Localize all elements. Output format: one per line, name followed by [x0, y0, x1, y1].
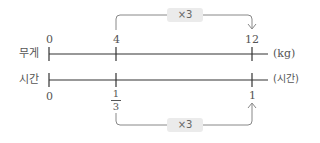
time-unit: (시간)	[273, 74, 299, 84]
time-value-one-third: 1 3	[111, 89, 121, 112]
weight-value-0: 0	[46, 34, 53, 45]
weight-value-12: 12	[245, 34, 259, 45]
weight-row-label: 무게	[19, 48, 39, 59]
weight-unit: (kg)	[273, 48, 295, 59]
time-value-0: 0	[46, 91, 53, 102]
fraction-denominator: 3	[113, 101, 119, 112]
time-value-1: 1	[249, 90, 256, 101]
bottom-multiplier-badge: ×3	[167, 118, 203, 132]
top-multiplier-badge: ×3	[167, 8, 203, 22]
number-line-diagram	[0, 0, 320, 143]
fraction-numerator: 1	[113, 88, 119, 99]
time-row-label: 시간	[19, 74, 39, 85]
weight-value-4: 4	[113, 34, 120, 45]
